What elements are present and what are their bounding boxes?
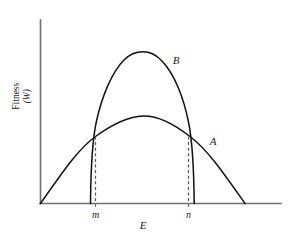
fitness-curve-figure: B A m n E Fitness (W) [0,0,293,239]
x-axis-label: E [139,219,147,231]
chart-canvas: B A m n E [0,0,293,239]
curve-a [41,116,246,204]
curve-a-label: A [209,135,217,147]
tick-label-n: n [186,209,191,220]
tick-label-m: m [92,209,99,220]
curve-b-label: B [173,54,180,66]
y-axis-label-line1: Fitness [11,83,21,110]
y-axis-label-line2: (W) [22,89,32,103]
y-axis-label: Fitness (W) [11,61,33,131]
